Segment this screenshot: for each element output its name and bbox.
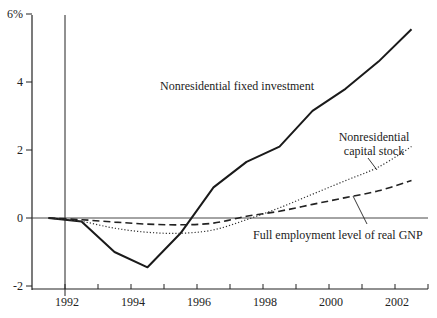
y-tick-label: 0: [17, 211, 23, 225]
x-tick-label: 1998: [253, 295, 277, 309]
annotation-fixed-investment: Nonresidential fixed investment: [160, 79, 315, 93]
x-tick-label: 2002: [385, 295, 409, 309]
y-tick-label: 4: [17, 75, 23, 89]
x-tick-label: 1996: [187, 295, 211, 309]
x-axis-ticks: 199219941996199820002002: [55, 284, 428, 309]
annotation-gnp: Full employment level of real GNP: [253, 228, 423, 242]
y-axis-ticks: 6%420-2: [7, 7, 32, 293]
leader-line-capital-stock: [368, 158, 377, 170]
leader-line-gnp: [353, 196, 367, 224]
x-tick-label: 1994: [121, 295, 145, 309]
y-tick-label: 2: [17, 143, 23, 157]
x-tick-label: 2000: [319, 295, 343, 309]
annotation-capital-stock-line2: capital stock: [344, 144, 404, 158]
annotation-capital-stock-line1: Nonresidential: [339, 130, 410, 144]
x-tick-label: 1992: [55, 295, 79, 309]
y-tick-label: -2: [13, 279, 23, 293]
y-tick-label: 6%: [7, 7, 23, 21]
line-chart: 6%420-2 199219941996199820002002 Nonresi…: [0, 0, 437, 318]
